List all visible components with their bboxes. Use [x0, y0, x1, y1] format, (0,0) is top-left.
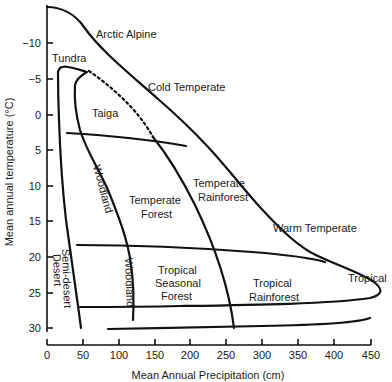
label-warm-temperate: Warm Temperate: [273, 222, 357, 234]
y-axis-title: Mean annual temperature (°C): [3, 98, 15, 247]
label-desert: Desert: [51, 254, 64, 287]
x-tick: 100: [110, 349, 128, 361]
y-tick: 10: [29, 180, 41, 192]
label-tundra: Tundra: [52, 52, 87, 64]
y-tick-labels: −10 −5 0 5 10 15 20 25 30: [22, 37, 41, 334]
y-tick: 20: [29, 251, 41, 263]
label-tropical-seasonal-1: Tropical: [158, 264, 197, 276]
x-tick: 0: [44, 349, 50, 361]
label-tropical-rainforest-1: Tropical: [253, 277, 292, 289]
biome-chart: −10 −5 0 5 10 15 20 25 30 0 50 100 150 2…: [0, 0, 392, 382]
bottom-boundary: [108, 318, 370, 329]
x-tick-labels: 0 50 100 150 200 250 300 350 400 450: [44, 349, 380, 361]
taiga-dotted-boundary: [89, 71, 153, 137]
outer-envelope-curve: [47, 7, 380, 307]
label-cold-temperate: Cold Temperate: [148, 81, 225, 93]
label-temperate-rainforest-2: Rainforest: [198, 191, 248, 203]
label-woodland-upper: Woodland: [91, 163, 115, 214]
label-tropical-seasonal-2: Seasonal: [155, 277, 201, 289]
x-tick: 450: [362, 349, 380, 361]
x-tick: 350: [289, 349, 307, 361]
y-tick: −5: [28, 73, 41, 85]
label-temperate-forest-2: Forest: [141, 208, 172, 220]
label-taiga: Taiga: [92, 107, 119, 119]
y-tick: 5: [35, 144, 41, 156]
label-tropical-seasonal-3: Forest: [161, 290, 192, 302]
label-temperate-forest-1: Temperate: [129, 194, 181, 206]
y-tick: 25: [29, 287, 41, 299]
x-axis: [47, 339, 371, 345]
y-tick: 0: [35, 109, 41, 121]
x-tick: 150: [146, 349, 164, 361]
y-tick: −10: [22, 37, 41, 49]
temperate-tropical-line: [77, 245, 325, 262]
label-tropical-rainforest-2: Rainforest: [249, 291, 299, 303]
x-tick: 300: [253, 349, 271, 361]
x-tick: 50: [77, 349, 89, 361]
x-axis-title: Mean Annual Precipitation (cm): [132, 369, 285, 381]
label-tropical: Tropical: [348, 272, 387, 284]
y-tick: 15: [29, 215, 41, 227]
x-tick: 250: [217, 349, 235, 361]
label-woodland-lower: Woodland: [123, 258, 137, 308]
y-tick: 30: [29, 322, 41, 334]
label-arctic-alpine: Arctic Alpine: [96, 28, 157, 40]
x-tick: 200: [181, 349, 199, 361]
x-tick: 400: [325, 349, 343, 361]
label-temperate-rainforest-1: Temperate: [193, 177, 245, 189]
